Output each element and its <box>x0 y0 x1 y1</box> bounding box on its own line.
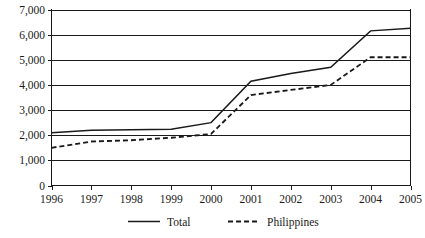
x-tick-label-1999: 1999 <box>160 193 183 205</box>
x-tick-label-2004: 2004 <box>359 193 382 205</box>
y-tick-label-5000: 5,000 <box>19 54 45 67</box>
y-tick-label-1000: 1,000 <box>19 154 45 167</box>
line-chart: 01,0002,0003,0004,0005,0006,0007,000 199… <box>0 0 425 238</box>
x-tick-label-2000: 2000 <box>200 193 223 205</box>
y-tick-label-0: 0 <box>39 180 45 192</box>
x-tick-label-1997: 1997 <box>80 193 103 205</box>
y-tick-label-4000: 4,000 <box>19 79 45 92</box>
legend-label-total: Total <box>167 216 190 228</box>
chart-canvas: 01,0002,0003,0004,0005,0006,0007,000 199… <box>0 0 425 238</box>
y-tick-label-7000: 7,000 <box>19 4 45 17</box>
x-tick-label-1998: 1998 <box>120 193 143 205</box>
y-tick-label-2000: 2,000 <box>19 129 45 142</box>
x-tick-label-2003: 2003 <box>319 193 342 205</box>
y-tick-label-6000: 6,000 <box>19 29 45 42</box>
x-tick-label-2005: 2005 <box>399 193 422 205</box>
x-tick-label-2002: 2002 <box>279 193 302 205</box>
legend-label-philippines: Philippines <box>267 216 319 229</box>
x-tick-label-2001: 2001 <box>239 193 262 205</box>
y-tick-label-3000: 3,000 <box>19 104 45 117</box>
x-tick-label-1996: 1996 <box>40 193 63 205</box>
